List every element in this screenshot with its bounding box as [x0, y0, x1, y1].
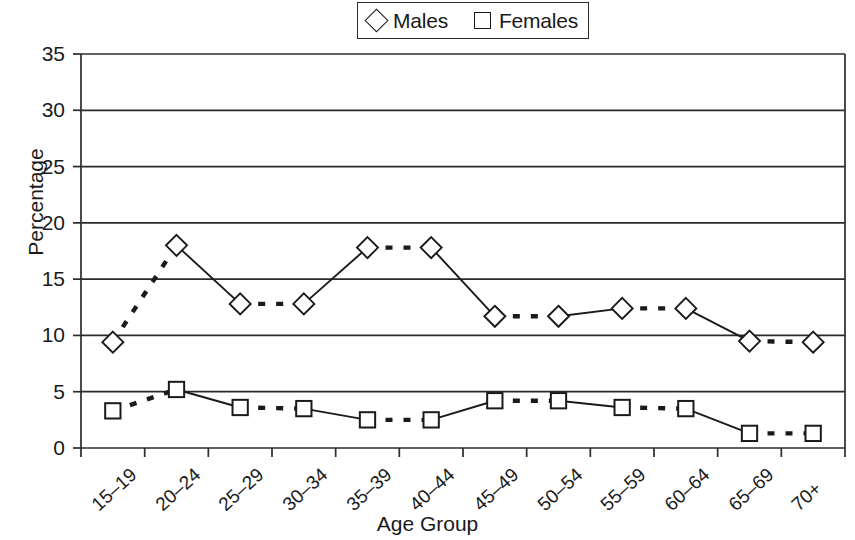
- data-point-square: [105, 403, 120, 418]
- series-segment: [113, 245, 177, 342]
- axis-frame: [73, 54, 845, 448]
- data-point-square: [551, 393, 566, 408]
- series-segment: [240, 407, 304, 408]
- series-segment: [304, 248, 368, 304]
- data-point-square: [424, 412, 439, 427]
- gridlines: [81, 54, 845, 448]
- data-point-square: [487, 393, 502, 408]
- data-point-square: [169, 382, 184, 397]
- data-point-square: [806, 426, 821, 441]
- series-segment: [622, 407, 686, 408]
- series-segment: [431, 248, 495, 317]
- data-point-square: [233, 400, 248, 415]
- data-point-diamond: [675, 298, 696, 319]
- data-point-square: [296, 401, 311, 416]
- data-point-diamond: [548, 306, 569, 327]
- series-segment: [177, 245, 241, 304]
- series-segment: [686, 409, 750, 434]
- data-point-square: [678, 401, 693, 416]
- series-segment: [431, 401, 495, 420]
- data-point-diamond: [739, 331, 760, 352]
- x-axis-title: Age Group: [0, 512, 855, 536]
- series-markers-females: [105, 382, 821, 441]
- series-line-females: [113, 389, 813, 433]
- chart-container: Males Females Percentage 35302520151050 …: [0, 0, 855, 540]
- data-point-diamond: [612, 298, 633, 319]
- plot-area: [0, 0, 855, 540]
- series-line-males: [113, 245, 813, 342]
- series-segment: [113, 389, 177, 410]
- x-axis-ticks: [81, 448, 845, 457]
- data-point-square: [615, 400, 630, 415]
- series-segment: [304, 409, 368, 420]
- data-point-square: [742, 426, 757, 441]
- series-segment: [559, 401, 623, 408]
- data-point-square: [360, 412, 375, 427]
